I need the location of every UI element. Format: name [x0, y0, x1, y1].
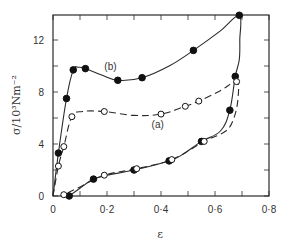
- data-point: [196, 98, 202, 104]
- data-point: [158, 111, 164, 117]
- data-point: [236, 12, 243, 19]
- data-point: [55, 163, 61, 169]
- y-axis-title: σ/10³Nm⁻²: [10, 75, 23, 135]
- x-tick-label: 0: [50, 204, 56, 215]
- series-curve-b: [53, 15, 241, 196]
- data-point: [115, 77, 122, 84]
- data-point: [70, 67, 77, 74]
- data-point: [82, 65, 89, 72]
- series-labels: (b)(a): [104, 61, 163, 130]
- y-tick-label: 4: [38, 139, 44, 150]
- x-tick-label: 0·8: [262, 204, 277, 215]
- stress-strain-chart: 00·20·40·60·8 04812 (b)(a) ε σ/10³Nm⁻²: [0, 0, 285, 244]
- x-tick-label: 0·4: [154, 204, 169, 215]
- data-point: [190, 47, 197, 54]
- data-point: [227, 107, 234, 114]
- data-point: [61, 144, 67, 150]
- x-tick-label: 0·2: [100, 204, 115, 215]
- data-curves: [53, 15, 241, 196]
- x-axis-title: ε: [157, 228, 163, 241]
- data-point: [201, 138, 207, 144]
- data-point: [90, 176, 97, 183]
- y-tick-label: 0: [38, 191, 44, 202]
- data-point: [101, 109, 107, 115]
- data-point: [55, 150, 62, 157]
- series-label: (b): [104, 61, 116, 72]
- data-point: [139, 74, 146, 81]
- x-tick-label: 0·6: [208, 204, 223, 215]
- data-point: [69, 114, 75, 120]
- data-point: [182, 103, 188, 109]
- data-point: [61, 192, 67, 198]
- data-point: [169, 157, 175, 163]
- y-tick-label: 12: [33, 35, 45, 46]
- data-point: [63, 95, 70, 102]
- y-tick-label: 8: [38, 87, 44, 98]
- series-label: (a): [152, 119, 164, 130]
- data-markers: [55, 12, 243, 199]
- series-curve-a: [53, 81, 239, 196]
- data-point: [101, 172, 107, 178]
- data-point: [234, 79, 240, 85]
- data-point: [134, 166, 140, 172]
